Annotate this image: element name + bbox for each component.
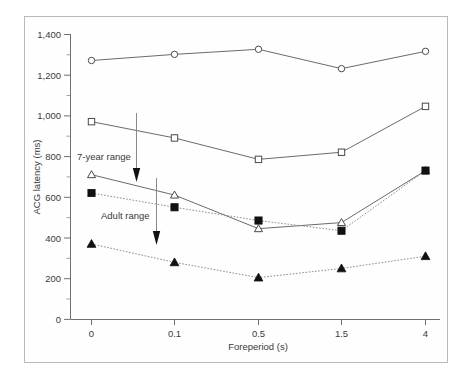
data-point-open-square-series-4 xyxy=(422,103,428,109)
series-filled-square-series xyxy=(88,167,429,234)
series-line-open-square-series xyxy=(92,106,426,159)
annotation-seven-year-range: 7-year range xyxy=(77,113,140,182)
data-point-filled-square-series-0 xyxy=(88,189,95,196)
acg-latency-line-chart: 1,400 1,200 1,000 800 600 400 200 0 0 0.… xyxy=(0,0,472,381)
x-tick-label-0: 0 xyxy=(89,328,94,339)
y-axis xyxy=(64,34,71,319)
data-point-filled-triangle-series-0 xyxy=(87,240,96,248)
y-tick-label-0: 0 xyxy=(56,314,61,325)
data-point-open-square-series-2 xyxy=(255,156,261,162)
x-tick-label-4: 4 xyxy=(423,328,428,339)
data-point-filled-triangle-series-4 xyxy=(421,252,430,260)
x-tick-label-0.1: 0.1 xyxy=(168,328,181,339)
data-point-open-square-series-1 xyxy=(171,135,177,141)
x-axis-title: Foreperiod (s) xyxy=(228,341,288,352)
data-point-open-circle-series-4 xyxy=(422,48,428,54)
data-point-filled-square-series-3 xyxy=(338,227,345,234)
data-point-open-circle-series-3 xyxy=(338,65,344,71)
series-open-square-series xyxy=(88,103,428,162)
data-point-open-circle-series-0 xyxy=(88,57,94,63)
data-point-filled-square-series-4 xyxy=(422,167,429,174)
x-axis xyxy=(71,320,441,326)
seven-year-range-arrow-head xyxy=(133,168,140,182)
y-tick-label-200: 200 xyxy=(45,273,61,284)
x-tick-labels: 0 0.1 0.5 1.5 4 xyxy=(89,328,428,339)
data-point-open-circle-series-1 xyxy=(171,51,177,57)
seven-year-range-label: 7-year range xyxy=(77,151,131,162)
x-tick-label-0.5: 0.5 xyxy=(252,328,265,339)
y-axis-title: ACG latency (ms) xyxy=(31,140,42,215)
series-filled-triangle-series xyxy=(87,240,430,281)
series-open-circle-series xyxy=(88,46,428,72)
y-tick-label-600: 600 xyxy=(45,192,61,203)
data-point-open-square-series-3 xyxy=(338,149,344,155)
data-point-open-circle-series-2 xyxy=(255,46,261,52)
annotation-adult-range: Adult range xyxy=(101,178,160,245)
data-point-open-triangle-series-0 xyxy=(88,171,96,178)
y-tick-label-1200: 1,200 xyxy=(37,70,61,81)
x-tick-label-1.5: 1.5 xyxy=(335,328,348,339)
y-tick-label-1000: 1,000 xyxy=(37,110,61,121)
data-point-filled-square-series-2 xyxy=(255,217,262,224)
y-tick-label-800: 800 xyxy=(45,151,61,162)
y-tick-label-400: 400 xyxy=(45,233,61,244)
data-point-open-triangle-series-3 xyxy=(338,219,346,226)
data-point-open-square-series-0 xyxy=(88,118,94,124)
y-tick-label-1400: 1,400 xyxy=(37,29,61,40)
figure-container: 1,400 1,200 1,000 800 600 400 200 0 0 0.… xyxy=(0,0,472,381)
adult-range-arrow-head xyxy=(153,231,160,245)
adult-range-label: Adult range xyxy=(101,210,150,221)
data-point-filled-triangle-series-1 xyxy=(170,258,179,266)
data-point-filled-square-series-1 xyxy=(171,204,178,211)
series-layer xyxy=(87,46,430,281)
